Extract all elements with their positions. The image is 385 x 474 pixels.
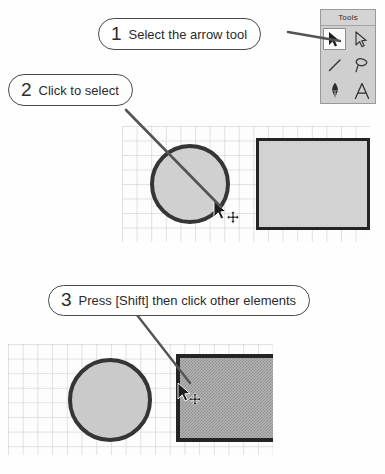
callout-number: 3 [61,290,72,309]
rectangle-shape[interactable] [256,138,370,230]
arrow-select-tool[interactable] [323,28,346,50]
pen-nib-icon [329,82,341,100]
tutorial-illustration: 1 Select the arrow tool 2 Click to selec… [0,0,385,474]
filled-arrow-icon [327,31,342,48]
direct-select-tool[interactable] [348,26,375,52]
callout-number: 1 [111,24,122,43]
callout-number: 2 [21,80,32,99]
arrow-move-cursor [176,382,206,408]
callout-step-3: 3 Press [Shift] then click other element… [48,285,310,316]
lasso-icon [353,57,371,73]
line-icon [327,58,343,73]
text-tool[interactable] [348,78,375,104]
tools-palette-titlebar: Tools [321,10,375,26]
tools-palette-title: Tools [338,13,358,22]
arrow-move-cursor [212,200,242,226]
tools-grid [321,26,375,104]
outline-arrow-icon [354,31,369,48]
callout-step-1: 1 Select the arrow tool [98,18,261,50]
callout-text: Select the arrow tool [129,28,248,41]
callout-text: Press [Shift] then click other elements [79,294,296,307]
tools-palette[interactable]: Tools [320,9,376,104]
move-arrows-icon [189,393,201,405]
pen-tool[interactable] [321,78,348,104]
letter-a-icon [353,82,371,100]
lasso-tool[interactable] [348,52,375,78]
arrow-pointer-icon [214,201,226,219]
arrow-pointer-icon [178,383,190,401]
circle-shape[interactable] [68,358,152,442]
callout-text: Click to select [39,84,119,97]
canvas-step-2[interactable] [122,126,370,242]
canvas-step-3[interactable] [8,344,273,455]
move-arrows-icon [227,211,239,223]
callout-step-2: 2 Click to select [8,74,133,106]
line-tool[interactable] [321,52,348,78]
